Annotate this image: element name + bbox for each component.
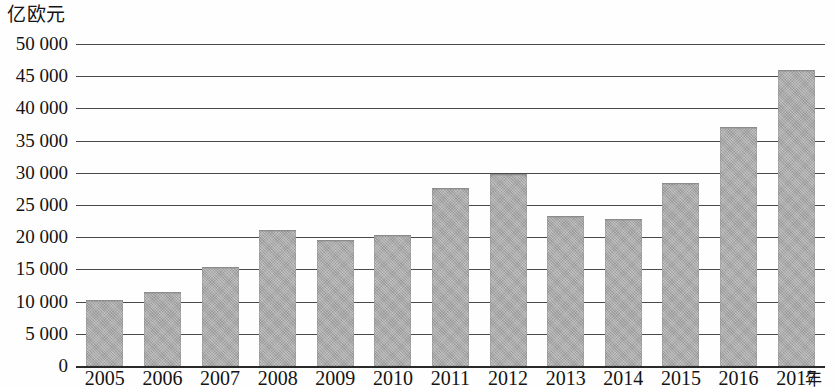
y-tick-label: 50 000 [0,34,68,53]
bar [86,300,123,366]
gridline [76,76,825,77]
bar [547,216,584,366]
gridline [76,44,825,45]
gridline [76,108,825,109]
y-tick-label: 10 000 [0,292,68,311]
bar-chart: 亿欧元 50 00045 00040 00035 00030 00025 000… [0,0,835,389]
y-tick-label: 40 000 [0,98,68,117]
x-axis-tick-labels: 年 20052006200720082009201020112012201320… [0,366,835,389]
y-tick-label: 15 000 [0,259,68,278]
bar [605,219,642,366]
x-tick-label: 2012 [478,367,538,389]
x-tick-label: 2006 [132,367,192,389]
bar [259,230,296,366]
x-tick-label: 2009 [305,367,365,389]
bar [374,235,411,366]
bar [432,188,469,366]
bar [662,183,699,366]
bar [317,240,354,366]
x-tick-label: 2005 [75,367,135,389]
bar [144,292,181,366]
y-tick-label: 5 000 [0,324,68,343]
y-axis-tick-labels: 50 00045 00040 00035 00030 00025 00020 0… [0,0,68,389]
bar [720,127,757,366]
x-tick-label: 2017 [766,367,826,389]
y-tick-label: 35 000 [0,131,68,150]
x-tick-label: 2013 [536,367,596,389]
x-tick-label: 2010 [363,367,423,389]
gridline [76,141,825,142]
plot-area [76,44,825,366]
y-tick-label: 45 000 [0,66,68,85]
y-tick-label: 25 000 [0,195,68,214]
x-tick-label: 2011 [421,367,481,389]
bar [778,70,815,366]
y-tick-label: 30 000 [0,163,68,182]
x-tick-label: 2015 [651,367,711,389]
x-tick-label: 2007 [190,367,250,389]
gridline [76,173,825,174]
bar [490,174,527,366]
bar [202,267,239,366]
y-tick-label: 20 000 [0,227,68,246]
x-tick-label: 2014 [593,367,653,389]
x-tick-label: 2008 [248,367,308,389]
x-tick-label: 2016 [709,367,769,389]
